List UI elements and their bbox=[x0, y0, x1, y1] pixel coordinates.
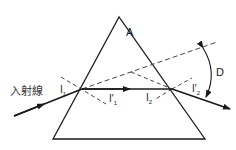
deviation-label: D bbox=[216, 66, 224, 78]
apex-label: A bbox=[126, 26, 134, 38]
normal-entry-dashed bbox=[61, 77, 106, 104]
deviation-arc bbox=[203, 48, 211, 97]
angle-i2-label: I2 bbox=[146, 92, 153, 105]
normal-exit-dashed-lower bbox=[154, 89, 172, 100]
normal-exit-dashed-ext bbox=[172, 78, 192, 89]
normal-exit-dashed bbox=[131, 72, 172, 89]
emergent-ray bbox=[172, 89, 230, 109]
angle-r2-label: I'2 bbox=[192, 83, 201, 96]
angle-i1-label: I1 bbox=[60, 84, 67, 97]
prism-diagram: A 入射線 I1 I'1 I2 I'2 D bbox=[0, 0, 236, 150]
incident-ray-label: 入射線 bbox=[10, 84, 43, 98]
incident-ray-arrow bbox=[14, 104, 44, 116]
angle-r1-label: I'1 bbox=[109, 93, 118, 106]
